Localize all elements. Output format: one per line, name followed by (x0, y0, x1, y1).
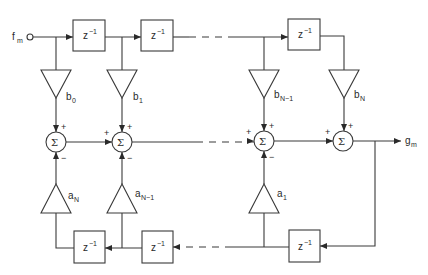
svg-text:f: f (12, 31, 15, 42)
svg-text:−1: −1 (304, 239, 312, 246)
svg-text:z: z (298, 29, 303, 40)
gain-b1: b 1 (107, 70, 143, 104)
svg-text:1: 1 (139, 97, 143, 104)
svg-text:z: z (151, 242, 156, 253)
svg-text:Σ: Σ (117, 137, 124, 148)
svg-text:+: + (269, 121, 274, 131)
svg-text:N: N (74, 196, 79, 203)
svg-text:g: g (405, 135, 411, 146)
delay-box-bottom-1: z −1 (74, 231, 105, 263)
svg-text:+: + (104, 128, 109, 138)
delay-box-top-1: z −1 (73, 20, 105, 51)
svg-text:0: 0 (72, 97, 76, 104)
svg-text:−1: −1 (89, 28, 97, 35)
svg-text:N: N (360, 95, 365, 102)
input-node: f m (12, 31, 33, 44)
delay-box-top-2: z −1 (141, 20, 173, 51)
svg-text:N−1: N−1 (141, 194, 154, 201)
svg-text:z: z (83, 30, 88, 41)
svg-text:+: + (127, 122, 132, 132)
svg-text:m: m (411, 141, 417, 148)
gain-bN-1: b N−1 (249, 70, 293, 102)
output-node: g m (405, 135, 417, 148)
svg-text:−1: −1 (304, 27, 312, 34)
svg-text:+: + (325, 127, 330, 137)
svg-text:z: z (83, 242, 88, 253)
svg-text:+: + (348, 121, 353, 131)
svg-text:N−1: N−1 (280, 95, 293, 102)
svg-text:z: z (151, 30, 156, 41)
gain-aN-1: a N−1 (107, 184, 154, 213)
svg-text:Σ: Σ (259, 136, 266, 147)
svg-text:m: m (17, 37, 23, 44)
svg-text:Σ: Σ (338, 136, 345, 147)
svg-text:+: + (61, 122, 66, 132)
svg-text:−1: −1 (89, 240, 97, 247)
gain-aN: a N (41, 184, 79, 213)
svg-text:z: z (298, 241, 303, 252)
sum-junction-N: Σ + + (325, 121, 353, 151)
gain-a1: a 1 (249, 184, 287, 213)
delay-box-top-3: z −1 (288, 19, 320, 50)
iir-filter-diagram: f m z −1 z −1 z −1 b 0 b 1 b N−1 (0, 0, 428, 275)
gain-bN: b N (329, 70, 365, 102)
svg-text:−: − (269, 152, 274, 162)
delay-box-bottom-3: z −1 (289, 230, 320, 262)
svg-text:Σ: Σ (51, 137, 58, 148)
svg-text:−1: −1 (157, 28, 165, 35)
gain-b0: b 0 (41, 70, 76, 104)
svg-text:−: − (127, 153, 132, 163)
svg-text:+: + (246, 127, 251, 137)
delay-box-bottom-2: z −1 (142, 231, 173, 263)
svg-text:−1: −1 (157, 240, 165, 247)
svg-text:−: − (61, 153, 66, 163)
svg-text:1: 1 (283, 194, 287, 201)
